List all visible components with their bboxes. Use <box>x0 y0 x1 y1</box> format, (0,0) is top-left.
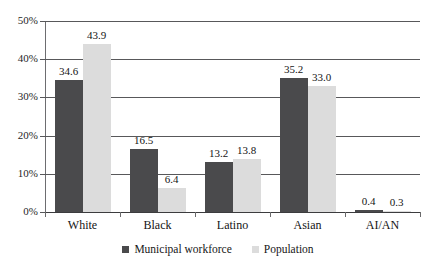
y-axis-tick-label: 20% <box>0 130 38 141</box>
bar-value-label: 16.5 <box>124 135 164 146</box>
legend-swatch-icon <box>122 246 129 253</box>
x-axis-category-label: Asian <box>270 218 345 232</box>
x-axis-tick <box>120 212 121 217</box>
bar <box>83 44 111 212</box>
x-axis-tick <box>420 212 421 217</box>
legend-item-municipal-workforce[interactable]: Municipal workforce <box>122 243 231 256</box>
y-axis-tick-label: 10% <box>0 168 38 179</box>
bar-value-label: 13.8 <box>227 145 267 156</box>
y-axis-tick-label: 40% <box>0 53 38 64</box>
bar-value-label: 43.9 <box>77 30 117 41</box>
legend-item-population[interactable]: Population <box>252 243 314 256</box>
legend-swatch-icon <box>252 246 259 253</box>
x-axis-category-label: Latino <box>195 218 270 232</box>
plot-area: 34.643.916.56.413.213.835.233.00.40.3 <box>45 21 420 212</box>
x-axis-tick <box>345 212 346 217</box>
bar-value-label: 0.3 <box>377 197 417 208</box>
gridline <box>45 21 420 22</box>
x-axis-category-label: Black <box>120 218 195 232</box>
x-axis-tick <box>195 212 196 217</box>
x-axis-category-label: White <box>45 218 120 232</box>
bar <box>233 159 261 212</box>
bar <box>205 162 233 212</box>
bar <box>280 78 308 212</box>
bar <box>308 86 336 212</box>
y-axis-tick-label: 50% <box>0 15 38 26</box>
bar-chart: 0%10%20%30%40%50% 34.643.916.56.413.213.… <box>0 0 436 270</box>
y-axis-tick-label: 0% <box>0 206 38 217</box>
bar <box>158 188 186 212</box>
x-axis-tick <box>45 212 46 217</box>
bar <box>55 80 83 212</box>
legend-label: Municipal workforce <box>134 243 231 256</box>
x-axis-category-label: AI/AN <box>345 218 420 232</box>
bar <box>355 210 383 212</box>
chart-legend: Municipal workforce Population <box>0 243 436 256</box>
bar <box>383 211 411 213</box>
legend-label: Population <box>264 243 314 256</box>
bar-value-label: 33.0 <box>302 72 342 83</box>
y-axis-tick-label: 30% <box>0 91 38 102</box>
x-axis-tick <box>270 212 271 217</box>
bar-value-label: 6.4 <box>152 174 192 185</box>
gridline <box>45 212 420 213</box>
